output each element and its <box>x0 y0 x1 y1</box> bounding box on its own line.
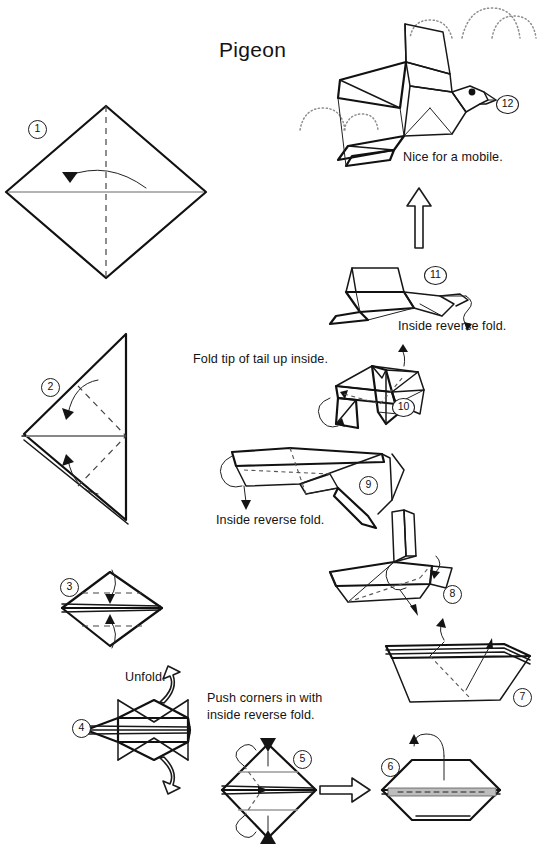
step-badge-5: 5 <box>293 750 312 769</box>
caption-unfold: Unfold. <box>125 670 166 684</box>
caption-inside-reverse-fold-11: Inside reverse fold. <box>398 319 506 333</box>
diagram-page: Pigeon <box>0 0 559 856</box>
step-badge-10: 10 <box>392 398 415 417</box>
step-8-figure <box>330 510 452 616</box>
step-badge-2: 2 <box>41 378 60 397</box>
step-badge-7: 7 <box>513 688 532 707</box>
caption-nice-for-a-mobile: Nice for a mobile. <box>403 150 503 164</box>
step-badge-11: 11 <box>424 266 447 285</box>
step-badge-6: 6 <box>381 758 400 777</box>
cloud-left-icon <box>300 108 345 130</box>
step-7-figure <box>386 618 530 702</box>
step-badge-8: 8 <box>443 585 462 604</box>
step-12-figure <box>300 8 536 166</box>
cloud-right-icon <box>462 8 520 38</box>
caption-inside-reverse-fold-9: Inside reverse fold. <box>216 513 324 527</box>
caption-push-corners-line1: Push corners in with <box>207 691 322 705</box>
step-badge-12: 12 <box>496 95 519 114</box>
pigeon-eye-icon <box>469 89 476 96</box>
step-badge-1: 1 <box>28 120 47 139</box>
caption-fold-tip-of-tail: Fold tip of tail up inside. <box>193 352 328 366</box>
step-4-figure <box>86 666 190 794</box>
step-badge-9: 9 <box>359 476 378 495</box>
step-6-figure <box>382 734 500 820</box>
caption-push-corners-line2: inside reverse fold. <box>207 708 315 722</box>
transition-arrow-right-icon <box>320 778 370 802</box>
step-badge-3: 3 <box>60 578 79 597</box>
transition-arrow-up-icon <box>407 188 431 248</box>
step-badge-4: 4 <box>72 719 91 738</box>
step-2-figure <box>22 334 128 524</box>
